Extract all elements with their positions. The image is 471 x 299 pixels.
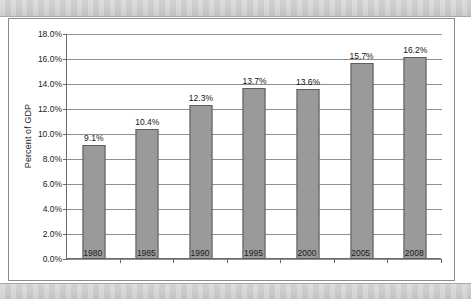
- scanned-page-band-bottom: [0, 283, 471, 299]
- bar-value-label: 15.7%: [350, 51, 374, 61]
- y-tick-label: 10.0%: [38, 129, 62, 139]
- x-tick-label: 2000: [298, 248, 317, 258]
- y-tick-label: 0.0%: [43, 254, 62, 264]
- bar-slot: 12.3%: [174, 34, 228, 259]
- x-tick-label: 1990: [190, 248, 209, 258]
- bar[interactable]: [136, 129, 159, 259]
- x-tick-mark: [227, 259, 228, 263]
- gridline: [67, 259, 442, 260]
- y-tick-label: 16.0%: [38, 54, 62, 64]
- y-tick-label: 2.0%: [43, 229, 62, 239]
- y-tick-label: 12.0%: [38, 104, 62, 114]
- x-tick-label: 1980: [83, 248, 102, 258]
- bar-slot: 10.4%: [121, 34, 175, 259]
- y-tick-label: 8.0%: [43, 154, 62, 164]
- plot-area: 0.0%2.0%4.0%6.0%8.0%10.0%12.0%14.0%16.0%…: [66, 34, 441, 259]
- x-tick-mark: [334, 259, 335, 263]
- figure-frame: Percent of GDP 0.0%2.0%4.0%6.0%8.0%10.0%…: [8, 18, 455, 281]
- y-tick-label: 18.0%: [38, 29, 62, 39]
- y-axis-title: Percent of GDP: [23, 86, 33, 186]
- y-tick-label: 6.0%: [43, 179, 62, 189]
- bar[interactable]: [297, 89, 320, 259]
- x-tick-label: 2008: [405, 248, 424, 258]
- bar-slot: 16.2%: [388, 34, 442, 259]
- x-tick-mark: [120, 259, 121, 263]
- bar-value-label: 13.7%: [242, 76, 266, 86]
- x-tick-label: 1985: [137, 248, 156, 258]
- x-tick-mark: [441, 259, 442, 263]
- chart-canvas: Percent of GDP 0.0%2.0%4.0%6.0%8.0%10.0%…: [9, 19, 456, 282]
- bar-slot: 13.7%: [228, 34, 282, 259]
- x-tick-mark: [173, 259, 174, 263]
- bar[interactable]: [350, 63, 373, 259]
- x-tick-label: 2005: [351, 248, 370, 258]
- bars-layer: 9.1%10.4%12.3%13.7%13.6%15.7%16.2%: [67, 34, 442, 259]
- x-tick-mark: [387, 259, 388, 263]
- y-tick-label: 14.0%: [38, 79, 62, 89]
- bar[interactable]: [189, 105, 212, 259]
- y-tick-mark: [63, 259, 67, 260]
- bar-value-label: 9.1%: [84, 133, 103, 143]
- bar[interactable]: [243, 88, 266, 259]
- bar[interactable]: [82, 145, 105, 259]
- bar-value-label: 10.4%: [135, 117, 159, 127]
- chart-page: Percent of GDP 0.0%2.0%4.0%6.0%8.0%10.0%…: [0, 0, 471, 299]
- bar-value-label: 16.2%: [403, 45, 427, 55]
- scanned-page-band-top: [0, 0, 471, 17]
- x-tick-label: 1995: [244, 248, 263, 258]
- bar-value-label: 13.6%: [296, 77, 320, 87]
- bar-slot: 15.7%: [335, 34, 389, 259]
- bar-value-label: 12.3%: [189, 93, 213, 103]
- y-tick-label: 4.0%: [43, 204, 62, 214]
- bar-slot: 9.1%: [67, 34, 121, 259]
- bar[interactable]: [404, 57, 427, 260]
- x-tick-mark: [280, 259, 281, 263]
- bar-slot: 13.6%: [281, 34, 335, 259]
